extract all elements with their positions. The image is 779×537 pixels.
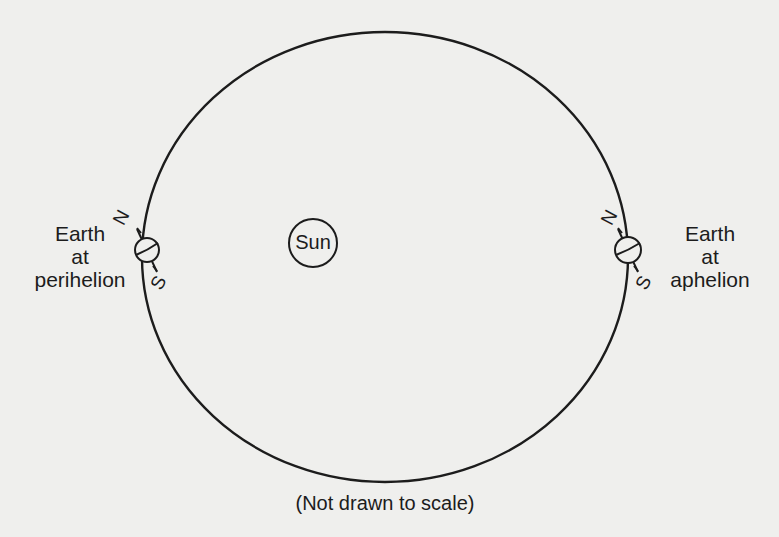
perihelion-label-line1: Earth: [28, 222, 132, 245]
sun-label: Sun: [293, 231, 333, 254]
perihelion-label: Earth at perihelion: [28, 222, 132, 291]
aphelion-label-line3: aphelion: [662, 268, 758, 291]
orbit-ellipse: [142, 32, 628, 482]
aphelion-label-line2: at: [662, 245, 758, 268]
earth-perihelion-globe: [135, 228, 159, 272]
perihelion-label-line2: at: [28, 245, 132, 268]
orbit-diagram: Sun Earth at perihelion N S Earth at aph…: [0, 0, 779, 537]
aphelion-label: Earth at aphelion: [662, 222, 758, 291]
perihelion-label-line3: perihelion: [28, 268, 132, 291]
aphelion-label-line1: Earth: [662, 222, 758, 245]
scale-caption: (Not drawn to scale): [285, 492, 485, 515]
